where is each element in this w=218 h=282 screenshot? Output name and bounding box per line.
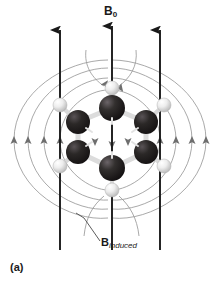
field-loop-right-2 xyxy=(112,68,192,209)
induced-field-label-main: B xyxy=(101,236,109,248)
carbon-atom xyxy=(134,140,158,164)
hydrogen-atom xyxy=(105,183,119,197)
applied-field-label-subscript: 0 xyxy=(113,10,117,19)
induced-field-label: Binduced xyxy=(101,237,137,250)
hydrogen-atom xyxy=(105,81,119,95)
induced-field-label-subscript: induced xyxy=(109,241,137,250)
carbon-atom xyxy=(66,140,90,164)
induced-field-direction-arrows xyxy=(11,136,210,149)
field-loop-left-2 xyxy=(28,68,108,209)
carbon-atom xyxy=(134,110,158,134)
applied-field-label-main: B xyxy=(104,4,113,18)
figure-panel-a: B0 Binduced (a) xyxy=(0,0,218,282)
field-arrow-center-right xyxy=(125,138,132,146)
field-arc-lower-left xyxy=(84,196,104,236)
hydrogen-atom xyxy=(157,159,171,173)
leader-line xyxy=(84,218,100,241)
hydrogen-atom xyxy=(157,98,171,112)
applied-field-label: B0 xyxy=(104,5,117,19)
hydrogen-atom xyxy=(53,159,67,173)
panel-label: (a) xyxy=(10,262,23,273)
carbon-atom xyxy=(66,110,90,134)
leader-tick xyxy=(76,213,84,218)
hydrogen-atom xyxy=(53,98,67,112)
